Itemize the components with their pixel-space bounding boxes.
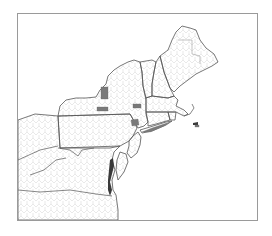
state-delaware-delmarva (116, 152, 128, 180)
highlighted-county (195, 125, 199, 127)
state-maine (160, 26, 218, 92)
highlighted-county (97, 107, 108, 111)
highlighted-county (131, 119, 139, 126)
state-pennsylvania (58, 114, 137, 148)
highlighted-county (133, 104, 141, 108)
northeast-county-map (0, 0, 272, 236)
nantucket (193, 122, 198, 125)
highlighted-county (101, 87, 108, 99)
